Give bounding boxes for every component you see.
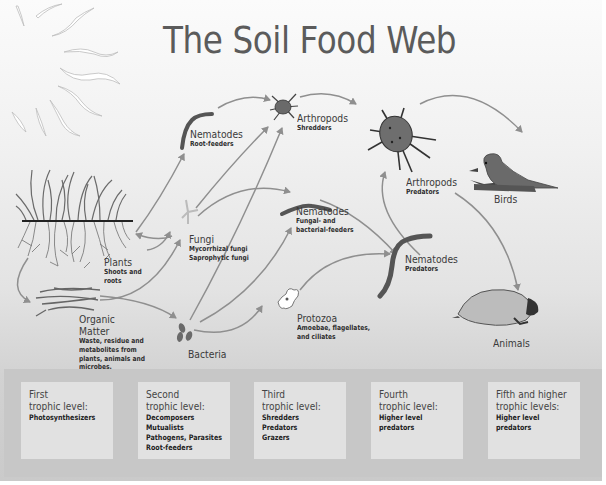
trophic-level-1: First trophic level: Photosynthesizers [21, 382, 113, 459]
trophic-level-5: Fifth and higher trophic levels: Higher … [488, 382, 580, 459]
bird-icon [469, 154, 558, 192]
label-bacteria: Bacteria [188, 348, 232, 360]
diagram-panel: The Soil Food Web [0, 0, 602, 481]
sun-rays-icon [12, 4, 120, 136]
label-plants: Plants Shoots and roots [104, 256, 148, 286]
trophic-level-3: Third trophic level: Shredders Predators… [254, 382, 346, 459]
trophic-level-2: Second trophic level: Decomposers Mutual… [138, 382, 230, 459]
mole-icon [452, 290, 538, 326]
fungi-icon [182, 200, 198, 224]
trophic-level-4: Fourth trophic level: Higher level preda… [371, 382, 463, 459]
label-protozoa: Protozoa Amoebae, flagellates, and cilia… [297, 312, 383, 342]
arthropod-shredder-icon [270, 94, 298, 120]
label-animals: Animals [493, 337, 535, 349]
protozoa-icon [278, 289, 299, 309]
trophic-levels-band: First trophic level: Photosynthesizers S… [4, 369, 602, 477]
label-arthropods-shredders: Arthropods Shredders [297, 112, 355, 133]
label-nematodes-fungal-bacterial-feeders: Nematodes Fungal- and bacterial-feeders [296, 205, 364, 235]
label-organic-matter: Organic Matter Waste, residue and metabo… [79, 313, 157, 372]
organic-matter-icon [36, 288, 100, 316]
label-birds: Birds [494, 193, 520, 205]
arthropod-predator-icon [368, 108, 436, 172]
label-nematodes-root-feeders: Nematodes Root-feeders [190, 128, 250, 149]
plants-icon [16, 170, 126, 220]
bacteria-icon [176, 322, 193, 342]
label-arthropods-predators: Arthropods Predators [406, 176, 464, 197]
label-fungi: Fungi Mycorrhizal fungi Saprophytic fung… [189, 233, 259, 263]
label-nematodes-predators: Nematodes Predators [405, 253, 465, 274]
